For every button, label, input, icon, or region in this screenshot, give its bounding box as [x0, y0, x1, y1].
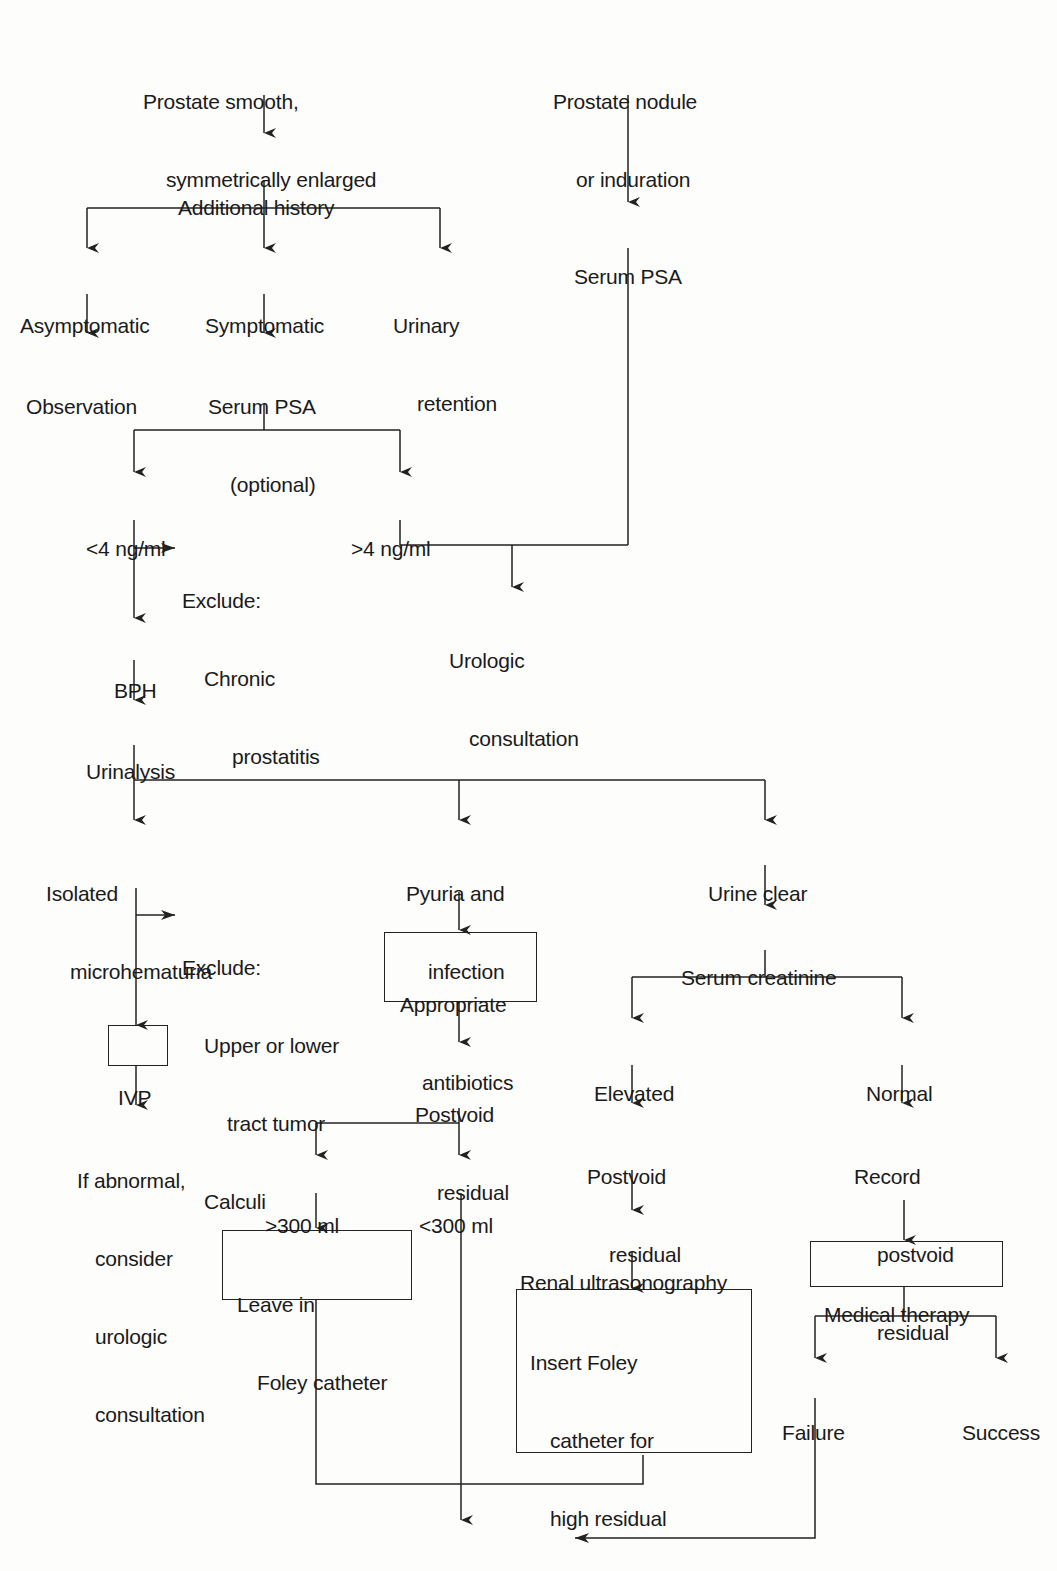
- node-psa-high: >4 ng/ml: [351, 484, 431, 588]
- node-urologic-consultation-bottom: Urologic consultation: [360, 1524, 551, 1571]
- node-medical-therapy: Medical therapy: [824, 1250, 969, 1354]
- node-under-300: <300 ml: [419, 1161, 493, 1265]
- node-additional-history: Additional history: [178, 143, 334, 247]
- node-prostate-nodule: Prostate nodule or induration: [553, 37, 697, 219]
- node-psa-low: <4 ng/ml: [86, 484, 166, 588]
- node-serum-psa-optional: Serum PSA (optional): [208, 342, 316, 524]
- node-if-abnormal: If abnormal, consider urologic consultat…: [77, 1116, 205, 1454]
- node-urinalysis: Urinalysis: [86, 707, 175, 811]
- node-exclude-prostatitis: Exclude: Chronic prostatitis: [182, 536, 320, 796]
- node-leave-foley: Leave in Foley catheter: [237, 1240, 387, 1422]
- node-urinary-retention: Urinary retention: [393, 261, 497, 443]
- node-serum-psa-right: Serum PSA: [574, 212, 682, 316]
- node-failure: Failure: [782, 1368, 845, 1472]
- node-success: Success: [962, 1368, 1040, 1472]
- node-observation: Observation: [26, 342, 137, 446]
- node-insert-foley: Insert Foley catheter for high residual …: [530, 1298, 713, 1571]
- node-urologic-consultation-top: Urologic consultation: [449, 596, 579, 778]
- node-serum-creatinine: Serum creatinine: [681, 913, 837, 1017]
